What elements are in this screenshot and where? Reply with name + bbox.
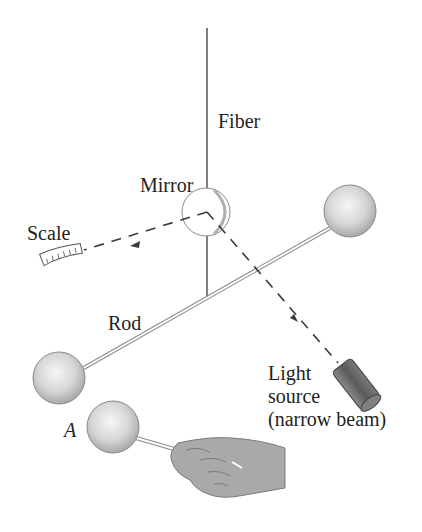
svg-text:source: source: [268, 385, 320, 407]
reflected-beam: [84, 212, 207, 250]
sphere-left: [33, 352, 85, 404]
torsion-balance-diagram: Fiber Rod Mirror Scale: [0, 0, 422, 532]
scale: [39, 243, 83, 266]
mirror-label: Mirror: [140, 174, 194, 196]
fiber-label: Fiber: [218, 110, 261, 132]
sphere-a: [87, 401, 139, 453]
scale-label: Scale: [27, 222, 70, 244]
light-source: [332, 358, 384, 415]
sphere-right: [324, 185, 376, 237]
hand-icon: [171, 438, 285, 498]
arrowhead-icon: [130, 241, 140, 248]
arrowhead-icon: [290, 314, 298, 322]
rod-label: Rod: [108, 312, 141, 334]
svg-text:Light: Light: [268, 362, 312, 385]
sphere-a-label: A: [62, 419, 77, 441]
svg-text:(narrow beam): (narrow beam): [268, 408, 386, 431]
rod: [82, 228, 330, 369]
